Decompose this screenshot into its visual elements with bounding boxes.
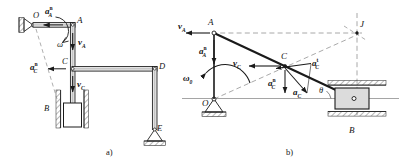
caption-b: b)	[286, 148, 293, 157]
caption-a: a)	[106, 148, 113, 157]
label-aCn-b: anC	[268, 79, 275, 88]
joint-C-a	[71, 67, 74, 70]
label-aCt-b: atC	[312, 59, 319, 68]
label-omega-a: ω	[57, 40, 63, 49]
point-J-b	[356, 32, 359, 35]
label-aCn-a: anC	[30, 63, 37, 72]
label-A-a: A	[77, 16, 83, 25]
label-vA-b: vA	[178, 22, 186, 31]
engineering-diagram-canvas	[0, 0, 403, 168]
omega0-arc-b	[206, 65, 250, 83]
figure-container: O anA A ω vA anC C vC B D E a) vA A anA …	[0, 0, 403, 168]
label-aAn-a: anA	[45, 7, 52, 16]
label-O-a: O	[33, 11, 39, 20]
angle-theta-arc-b	[327, 91, 332, 99]
label-J-b: J	[360, 20, 364, 29]
label-A-b: A	[208, 18, 214, 27]
label-aC-b: aC	[293, 88, 301, 97]
label-vC-b: vC	[233, 59, 241, 68]
link-CD-a	[72, 67, 157, 72]
label-vA-a: vA	[78, 38, 86, 47]
link-DE-a	[152, 67, 157, 130]
label-D-a: D	[159, 62, 165, 71]
label-theta-b: θ	[319, 86, 323, 95]
label-C-b: C	[281, 52, 287, 61]
label-B-b: B	[349, 126, 355, 135]
diagram-b-group	[182, 13, 399, 117]
construction-dashed-a	[36, 29, 57, 99]
label-E-a: E	[157, 124, 162, 133]
label-C-a: C	[62, 57, 68, 66]
joint-A-b	[212, 31, 216, 35]
label-aAn-b: anA	[199, 47, 206, 56]
label-O-b: O	[202, 99, 209, 108]
label-omega0-b: ω0	[183, 74, 192, 83]
label-B-a: B	[44, 104, 49, 113]
label-vC-a: vC	[77, 80, 85, 89]
diagram-a-group	[19, 17, 165, 146]
joint-D-a	[153, 67, 156, 70]
joint-A-a	[71, 24, 74, 27]
